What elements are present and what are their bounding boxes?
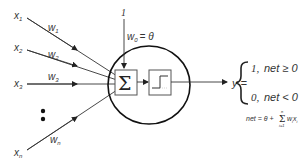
input-edges — [27, 18, 117, 150]
net-term: wixi — [287, 115, 297, 124]
output-equation: y = 1, net ≥ 0 0, net < 0 — [231, 62, 299, 104]
input-x2-label: x2 — [13, 42, 23, 54]
dot-icon — [41, 117, 45, 121]
net-formula-lhs: net = θ + — [246, 115, 274, 122]
bias-weight-label: w0= θ — [127, 31, 154, 43]
case-2-condition: net < 0 — [264, 91, 299, 103]
input-xn-label: xn — [13, 147, 23, 159]
weight-w1-label: w1 — [48, 22, 59, 34]
dot-icon — [41, 109, 45, 113]
bias-input-label: 1 — [121, 7, 126, 18]
input-x1-label: x1 — [13, 10, 22, 22]
case-1-value: 1, — [251, 62, 260, 74]
activation-unit — [149, 70, 171, 95]
weight-w3-label: w3 — [48, 71, 59, 83]
net-formula: net = θ + Σ n i=1 wixi — [246, 109, 297, 128]
perceptron-diagram: x1 x2 x3 xn w1 w2 w3 wn 1 w0= θ Σ y = 1, — [0, 0, 307, 163]
case-1-condition: net ≥ 0 — [264, 62, 298, 74]
weight-wn-label: wn — [50, 134, 61, 146]
input-labels: x1 x2 x3 xn — [13, 10, 23, 159]
weight-w2-label: w2 — [48, 49, 59, 61]
input-x3-label: x3 — [13, 78, 23, 90]
summation-unit: Σ — [115, 70, 137, 95]
case-2-value: 0, — [251, 91, 260, 103]
sigma-icon: Σ — [118, 72, 131, 94]
output-lhs: y = — [231, 77, 248, 89]
net-sum-lower: i=1 — [279, 123, 284, 128]
ellipsis-dots — [41, 109, 45, 121]
